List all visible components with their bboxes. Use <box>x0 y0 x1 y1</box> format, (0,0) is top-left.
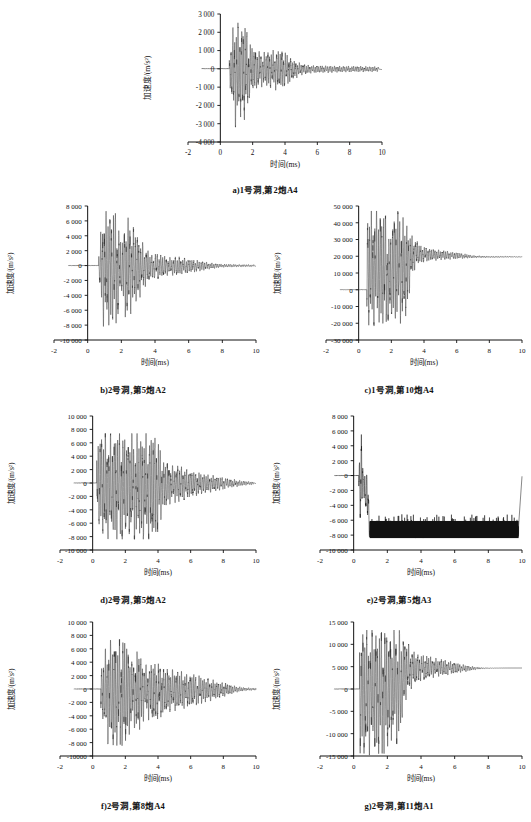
panel-c-chart: 50 00040 00030 00020 00010 0000-10 000-2… <box>268 196 530 382</box>
x-tick-label: 4 <box>283 149 287 157</box>
panel-d-chart: 10 0008 0006 0004 0002 0000-2 000-4 000-… <box>2 406 264 592</box>
x-tick-label: 8 <box>488 347 492 355</box>
panel-g-plot: 15 00010 0005 0000-5 000-10 000-15 000-2… <box>268 612 530 798</box>
x-tick-label: -2 <box>57 763 63 771</box>
y-tick-label: -2 000 <box>69 493 88 501</box>
panel-b-caption: b)2号洞,第5炮A2 <box>2 383 264 395</box>
y-tick-label: 2 000 <box>66 248 82 256</box>
x-tick-label: 0 <box>219 149 223 157</box>
y-tick-label: 4 000 <box>332 443 348 451</box>
x-tick-label: 4 <box>422 347 426 355</box>
y-tick-label: -4 000 <box>64 292 83 300</box>
saturation-band <box>370 521 519 538</box>
x-tick-label: 8 <box>221 347 225 355</box>
y-tick-label: -2 000 <box>64 277 83 285</box>
x-tick-label: 2 <box>120 347 124 355</box>
x-tick-label: 2 <box>124 557 128 565</box>
y-axis-title: 加速度/(m/s²) <box>5 252 15 294</box>
y-tick-label: -15 000 <box>326 753 348 761</box>
x-tick-label: 0 <box>357 347 361 355</box>
y-tick-label: 0 <box>344 686 348 694</box>
panel-e-caption: e)2号洞,第5炮A3 <box>268 593 530 605</box>
waveform-trace <box>74 433 256 539</box>
x-tick-label: 2 <box>386 763 390 771</box>
x-tick-label: 2 <box>124 763 128 771</box>
y-tick-label: 4 000 <box>71 659 87 667</box>
x-tick-label: 6 <box>187 347 191 355</box>
y-tick-label: -4 000 <box>69 713 88 721</box>
x-tick-label: -2 <box>51 347 57 355</box>
y-tick-label: -20 000 <box>331 320 353 328</box>
y-tick-label: -4 000 <box>196 139 215 147</box>
y-tick-label: 10 000 <box>67 619 87 627</box>
x-tick-label: -2 <box>323 347 329 355</box>
x-tick-label: 10 <box>519 763 527 771</box>
y-tick-label: 0 <box>349 287 353 295</box>
y-tick-label: 30 000 <box>333 236 353 244</box>
panel-e-plot: 8 0006 0004 0002 0000-2 000-4 000-6 000-… <box>268 406 530 592</box>
panel-d: 10 0008 0006 0004 0002 0000-2 000-4 000-… <box>2 406 264 605</box>
y-axis-title: 加速度/(m/s²) <box>6 462 16 504</box>
y-tick-label: 2 000 <box>198 29 215 37</box>
y-tick-label: -10 000 <box>326 731 348 739</box>
y-tick-label: 0 <box>83 480 87 488</box>
y-tick-label: 50 000 <box>333 203 353 211</box>
y-tick-label: 2 000 <box>71 467 87 475</box>
x-tick-label: 4 <box>419 763 423 771</box>
x-tick-label: 8 <box>487 557 491 565</box>
panel-b-plot: 8 0006 0004 0002 0000-2 000-4 000-6 000-… <box>2 196 264 382</box>
y-tick-label: 2 000 <box>71 673 87 681</box>
x-tick-label: 0 <box>91 557 95 565</box>
x-tick-label: 6 <box>453 557 457 565</box>
y-tick-label: -5 000 <box>330 708 349 716</box>
panel-b: 8 0006 0004 0002 0000-2 000-4 000-6 000-… <box>2 196 264 395</box>
y-tick-label: 40 000 <box>333 220 353 228</box>
y-tick-label: 15 000 <box>328 619 348 627</box>
x-tick-label: 10 <box>519 347 527 355</box>
y-tick-label: -4 000 <box>69 507 88 515</box>
x-tick-label: -2 <box>57 557 63 565</box>
x-axis-title: 时间(ms) <box>144 567 172 577</box>
x-tick-label: 8 <box>222 557 226 565</box>
x-tick-label: 4 <box>419 557 423 565</box>
y-axis-title: 加速度/(m/s²) <box>272 252 282 294</box>
y-tick-label: 6 000 <box>66 218 82 226</box>
x-tick-label: 10 <box>253 557 261 565</box>
x-tick-label: 0 <box>352 763 356 771</box>
panel-a-caption: a)1号洞,第2炮A4 <box>140 183 390 195</box>
y-tick-label: 0 <box>78 262 82 270</box>
waveform-trace <box>74 639 256 745</box>
x-tick-label: 2 <box>386 557 390 565</box>
waveform-trace <box>340 211 522 326</box>
x-tick-label: -2 <box>185 149 191 157</box>
y-tick-label: 6 000 <box>332 428 348 436</box>
panel-f-chart: 10 0008 0006 0004 0002 0000-2 000-4 000-… <box>2 612 264 798</box>
y-axis-title: 加速度/(m/s²) <box>271 668 281 710</box>
x-tick-label: 10 <box>253 763 261 771</box>
y-tick-label: -10 000 <box>331 303 353 311</box>
waveform-trace <box>202 23 382 127</box>
y-tick-label: 3 000 <box>198 11 215 19</box>
y-tick-label: 8 000 <box>71 632 87 640</box>
y-tick-label: 4 000 <box>66 233 82 241</box>
waveform-trace <box>68 211 256 326</box>
y-tick-label: 6 000 <box>71 440 87 448</box>
y-tick-label: -8 000 <box>69 534 88 542</box>
y-tick-label: -8 000 <box>64 322 83 330</box>
x-axis-title: 时间(ms) <box>407 773 435 783</box>
x-axis-title: 时间(ms) <box>144 773 172 783</box>
panel-g-caption: g)2号洞,第11炮A1 <box>268 799 530 811</box>
x-tick-label: 4 <box>156 557 160 565</box>
y-tick-label: 10 000 <box>67 413 87 421</box>
x-tick-label: 8 <box>222 763 226 771</box>
y-tick-label: -10 000 <box>60 337 82 345</box>
y-tick-label: -10000 <box>67 753 87 761</box>
panel-c: 50 00040 00030 00020 00010 0000-10 000-2… <box>268 196 530 395</box>
panel-a: 3 0002 0001 0000-1 000-2 000-3 000-4 000… <box>140 4 390 195</box>
panel-d-plot: 10 0008 0006 0004 0002 0000-2 000-4 000-… <box>2 406 264 592</box>
x-axis-title: 时间(ms) <box>407 567 435 577</box>
x-tick-label: 10 <box>378 149 386 157</box>
y-tick-label: -30 000 <box>331 337 353 345</box>
x-tick-label: -2 <box>317 763 323 771</box>
y-tick-label: -8 000 <box>330 532 349 540</box>
